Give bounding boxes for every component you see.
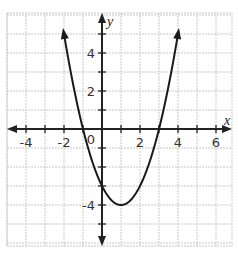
x-tick-label: -2 [58,135,71,150]
y-tick-label: 4 [87,46,95,61]
x-axis-label: x [223,113,231,128]
axes [7,13,232,246]
y-tick-label: 2 [87,84,95,99]
x-tick-label: 4 [174,135,182,150]
x-tick-label: 2 [136,135,144,150]
y-axis-down-arrow-icon [98,236,106,246]
curve-right-arrow-icon [173,28,181,40]
y-axis-label: y [105,14,114,29]
coordinate-plane: -4-2246042-4 x y [0,0,238,255]
x-axis-left-arrow-icon [7,125,17,133]
x-tick-label: -4 [20,135,33,150]
y-tick-label: -4 [82,198,95,213]
x-tick-label: 6 [212,135,220,150]
